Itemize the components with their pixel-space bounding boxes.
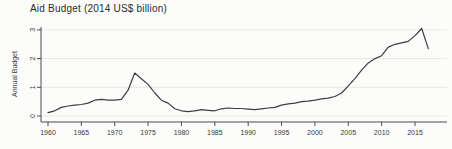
x-tick-label: 1975 [140,129,156,136]
x-tick-label: 2010 [374,129,390,136]
x-tick-label: 2015 [407,129,423,136]
aid-budget-line-chart: 0123196019651970197519801985199019952000… [0,0,452,149]
x-tick-label: 1995 [274,129,290,136]
y-tick-label: 0 [29,114,36,118]
x-tick-label: 1970 [107,129,123,136]
x-tick-label: 1965 [74,129,90,136]
x-tick-label: 1980 [174,129,190,136]
x-tick-label: 1960 [40,129,56,136]
x-tick-label: 1990 [240,129,256,136]
x-tick-label: 2000 [307,129,323,136]
y-tick-label: 1 [29,85,36,89]
budget-line-series [48,29,428,113]
x-tick-label: 1985 [207,129,223,136]
y-tick-label: 2 [29,57,36,61]
aid-budget-figure: Aid Budget (2014 US$ billion) Annual Bud… [0,0,452,149]
x-tick-label: 2005 [340,129,356,136]
y-tick-label: 3 [29,28,36,32]
